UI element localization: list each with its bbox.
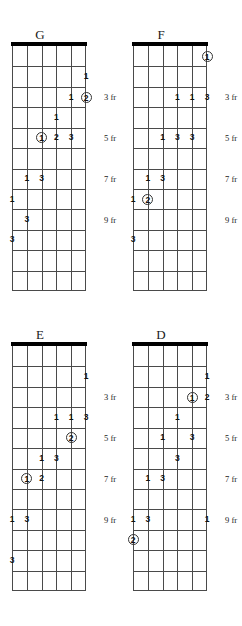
fret-line [133, 230, 207, 231]
fret-line [133, 407, 207, 408]
fret-line [12, 148, 86, 149]
fret-line [133, 448, 207, 449]
fret-line [12, 189, 86, 190]
finger-marker: 1 [142, 473, 153, 484]
fret-line [12, 271, 86, 272]
finger-marker: 1 [202, 514, 213, 525]
fret-position-label: 9 fr [225, 215, 237, 225]
fret-line [133, 66, 207, 67]
finger-marker: 1 [157, 132, 168, 143]
fret-line [133, 469, 207, 470]
finger-marker: 1 [7, 514, 18, 525]
finger-marker: 2 [36, 473, 47, 484]
fret-line [133, 209, 207, 210]
finger-marker: 1 [202, 371, 213, 382]
fret-position-label: 3 fr [225, 92, 237, 102]
finger-marker: 1 [81, 371, 92, 382]
fret-position-label: 5 fr [104, 133, 116, 143]
fret-line [133, 107, 207, 108]
fret-line [12, 387, 86, 388]
finger-marker: 3 [172, 453, 183, 464]
finger-marker: 1 [36, 453, 47, 464]
fret-line [133, 366, 207, 367]
root-note-marker: 1 [202, 51, 213, 62]
fretboard: 11211331311323 fr5 fr7 fr9 fr [133, 346, 207, 591]
fret-position-label: 3 fr [225, 392, 237, 402]
fret-line [133, 571, 207, 572]
diagram-e: E1113213121333 fr5 fr7 fr9 fr [0, 328, 121, 618]
finger-marker: 1 [51, 412, 62, 423]
fretboard: 1121123131333 fr5 fr7 fr9 fr [12, 46, 86, 291]
fret-line [12, 250, 86, 251]
string-line [71, 346, 72, 591]
string-line [177, 346, 178, 591]
finger-marker: 3 [36, 173, 47, 184]
fret-line [12, 550, 86, 551]
string-line [56, 346, 57, 591]
fret-line [133, 169, 207, 170]
string-line [192, 346, 193, 591]
fret-line [133, 509, 207, 510]
finger-marker: 1 [187, 92, 198, 103]
finger-marker: 3 [21, 514, 32, 525]
finger-marker: 3 [7, 234, 18, 245]
finger-marker: 2 [202, 392, 213, 403]
chord-title: D [121, 328, 201, 342]
finger-marker: 3 [202, 92, 213, 103]
string-line [27, 46, 28, 291]
fret-line [12, 87, 86, 88]
finger-marker: 3 [187, 132, 198, 143]
fret-position-label: 5 fr [225, 433, 237, 443]
fret-line [133, 128, 207, 129]
fret-position-label: 7 fr [225, 174, 237, 184]
chord-diagram-sheet: G1121123131333 fr5 fr7 fr9 frF1113133131… [0, 0, 242, 626]
fret-position-label: 9 fr [225, 515, 237, 525]
fret-line [133, 148, 207, 149]
fret-line [133, 387, 207, 388]
fret-position-label: 7 fr [104, 474, 116, 484]
fret-line [12, 448, 86, 449]
fret-line [12, 366, 86, 367]
finger-marker: 1 [142, 173, 153, 184]
string-line [192, 46, 193, 291]
finger-marker: 1 [172, 92, 183, 103]
fret-line [133, 550, 207, 551]
finger-marker: 3 [51, 453, 62, 464]
fret-line [133, 271, 207, 272]
fret-line [133, 489, 207, 490]
finger-marker: 2 [51, 132, 62, 143]
finger-marker: 1 [66, 412, 77, 423]
finger-marker: 1 [21, 173, 32, 184]
finger-marker: 3 [157, 473, 168, 484]
string-line [27, 346, 28, 591]
fret-line [133, 250, 207, 251]
fret-position-label: 3 fr [104, 392, 116, 402]
fret-line [12, 128, 86, 129]
finger-marker: 1 [172, 412, 183, 423]
fret-line [12, 489, 86, 490]
string-line [42, 346, 43, 591]
string-line [56, 46, 57, 291]
fretboard: 1113213121333 fr5 fr7 fr9 fr [12, 346, 86, 591]
finger-marker: 1 [157, 432, 168, 443]
fret-position-label: 5 fr [225, 133, 237, 143]
root-note-marker: 2 [142, 194, 153, 205]
finger-marker: 1 [51, 112, 62, 123]
chord-title: G [0, 28, 80, 42]
fretboard: 1113133131233 fr5 fr7 fr9 fr [133, 46, 207, 291]
string-line [163, 346, 164, 591]
chord-title: F [121, 28, 201, 42]
fret-line [12, 230, 86, 231]
fret-line [12, 169, 86, 170]
finger-marker: 3 [172, 132, 183, 143]
root-note-marker: 2 [128, 534, 139, 545]
fret-line [12, 509, 86, 510]
finger-marker: 3 [187, 432, 198, 443]
fret-line [12, 107, 86, 108]
diagram-d: D11211331311323 fr5 fr7 fr9 fr [121, 328, 242, 618]
fret-position-label: 3 fr [104, 92, 116, 102]
string-line [42, 46, 43, 291]
finger-marker: 3 [128, 234, 139, 245]
fret-line [12, 571, 86, 572]
string-line [177, 46, 178, 291]
